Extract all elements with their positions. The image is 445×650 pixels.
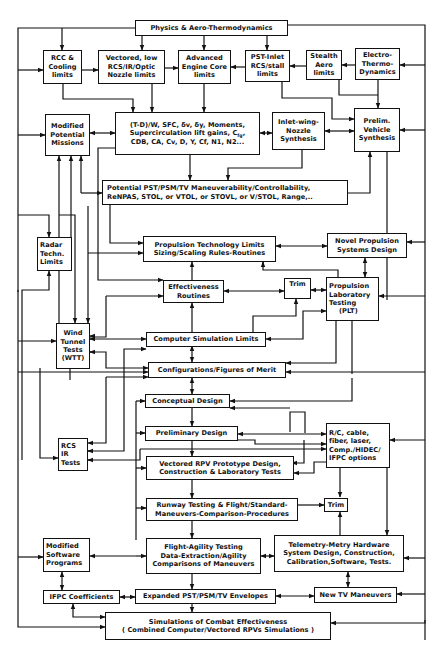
box-potential-pst: Potential PST/PSM/TV Maneuverability/Con… <box>102 180 348 205</box>
box-simulations-combat: Simulations of Combat Effectiveness ( Co… <box>105 612 331 640</box>
flow-diagram: Physics & Aero-Thermodynamics RCC & Cool… <box>0 0 445 650</box>
box-physics: Physics & Aero-Thermodynamics <box>135 20 288 36</box>
box-conceptual-design: Conceptual Design <box>145 394 230 408</box>
box-advanced-engine: Advanced Engine Core limits <box>178 50 231 84</box>
box-performance-parameters: (T-D)/W, SFC, δv, δy, Moments, Supercirc… <box>115 112 260 155</box>
box-computer-simulation: Computer Simulation Limits <box>146 332 266 347</box>
box-rc-cable-options: R/C, cable, fiber, laser, Comp./HIDEC/ I… <box>326 423 390 468</box>
box-telemetry: Telemetry-Metry Hardware System Design, … <box>274 535 404 572</box>
box-propulsion-lab-testing: Propulsion Laboratory Testing (PLT) <box>326 277 379 321</box>
box-flight-agility: Flight-Agility Testing Data-Extraction/A… <box>146 538 261 574</box>
box-modified-missions: Modified Potential Missions <box>45 114 90 156</box>
box-modified-software: Modified Software Programs <box>43 538 90 572</box>
box-wind-tunnel-tests: Wind Tunnel Tests (WTT) <box>56 323 90 369</box>
box-configurations: Configurations/Figures of Merit <box>148 362 286 378</box>
box-radar-techn: Radar Techn. Limits <box>37 237 72 271</box>
box-vectored-rpv: Vectored RPV Prototype Design, Construct… <box>146 456 294 480</box>
box-pst-inlet: PST-Inlet RCS/stall limits <box>245 50 290 82</box>
box-effectiveness: Effectiveness Routines <box>163 280 224 303</box>
box-ifpc-coefficients: IFPC Coefficients <box>43 590 120 604</box>
box-novel-propulsion: Novel Propulsion Systems Design <box>327 233 407 258</box>
box-preliminary-design: Preliminary Design <box>145 426 238 441</box>
box-stealth-aero: Stealth Aero limits <box>306 50 342 80</box>
box-electro-thermo: Electro- Thermo- Dynamics <box>355 48 400 80</box>
box-new-tv-maneuvers: New TV Maneuvers <box>314 587 397 603</box>
box-rcs-ir-tests: RCS IR Tests <box>58 438 88 471</box>
box-rcc-cooling: RCC & Cooling limits <box>43 50 82 84</box>
box-trim-1: Trim <box>284 278 311 299</box>
box-expanded-envelopes: Expanded PST/PSM/TV Envelopes <box>135 589 276 604</box>
box-propulsion-tech-limits: Propulsion Technology Limits Sizing/Scal… <box>143 236 276 262</box>
box-vectored-low: Vectored, low RCS/IR/Optic Nozzle limits <box>98 50 165 84</box>
box-inlet-wing-nozzle: Inlet-wing- Nozzle Synthesis <box>272 112 325 150</box>
box-trim-2: Trim <box>324 498 348 512</box>
box-runway-testing: Runway Testing & Flight/Standard- Maneuv… <box>146 498 298 521</box>
box-prelim-vehicle: Prelim. Vehicle Synthesis <box>354 108 400 152</box>
